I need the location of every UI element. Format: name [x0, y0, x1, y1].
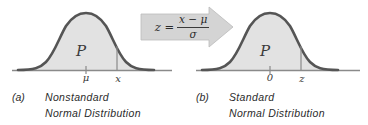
- panel-b-caption-line1: Standard: [229, 91, 274, 103]
- formula-lhs: z =: [155, 20, 174, 34]
- mean-axis-label: μ: [78, 72, 94, 83]
- formula-numerator: x − μ: [177, 14, 209, 26]
- panel-b-tag: (b): [196, 91, 209, 103]
- panel-a-caption-line2: Normal Distribution: [45, 107, 141, 119]
- formula-denominator: σ: [188, 28, 199, 40]
- probability-label-a: P: [76, 42, 86, 60]
- panel-a-caption-line1: Nonstandard: [45, 91, 109, 103]
- z-score-formula: z = x − μ σ: [147, 13, 217, 41]
- formula-fraction: x − μ σ: [177, 14, 209, 39]
- value-axis-label: x: [110, 73, 126, 84]
- normal-distribution-figure: P μ x (a) Nonstandard Normal Distributio…: [0, 0, 368, 125]
- panel-b-caption-line2: Normal Distribution: [229, 107, 325, 119]
- value-axis-label: z: [294, 73, 310, 84]
- probability-label-b: P: [260, 42, 270, 60]
- mean-axis-label: 0: [262, 72, 278, 83]
- transformation-arrow: z = x − μ σ: [139, 6, 235, 48]
- panel-a-tag: (a): [12, 91, 25, 103]
